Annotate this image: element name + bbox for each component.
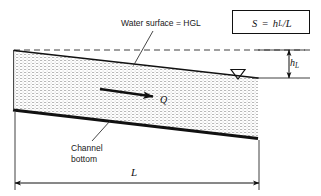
length-label: L [131,166,137,178]
formula-denominator: L [286,18,292,29]
channel-bottom-label: Channel bottom [71,143,103,164]
head-loss-label: hL [290,57,299,70]
channel-bottom-label-line1: Channel [71,143,103,154]
water-surface-label: Water surface = HGL [121,18,201,28]
head-loss-extension-lines [252,50,310,78]
discharge-label: Q [160,94,167,105]
head-loss-subscript: L [295,62,299,70]
formula-text: S=hL/L [233,11,311,35]
channel-bottom-leader-line [92,121,110,141]
open-channel-flow-diagram: Water surface = HGL Channel bottom Q hL … [0,0,321,196]
formula-box: S=hL/L [232,10,310,34]
formula-equals: = [258,18,273,29]
water-surface-leader-line [134,31,154,66]
channel-bottom-label-line2: bottom [71,154,103,165]
